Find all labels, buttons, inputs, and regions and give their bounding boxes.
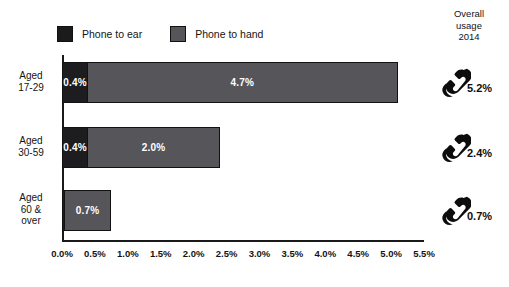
- overall-usage-row-aged-30-59: 2.4%: [437, 125, 507, 171]
- x-axis-tick-label: 0.0%: [51, 248, 73, 260]
- x-axis-tick-label: 1.0%: [117, 248, 139, 260]
- category-label-line1: Aged: [6, 70, 56, 82]
- legend-label-phone-to-hand: Phone to hand: [195, 28, 263, 40]
- category-label-line3: over: [6, 215, 56, 227]
- x-axis-tick-label: 2.5%: [216, 248, 238, 260]
- chart-legend: Phone to ear Phone to hand: [57, 24, 291, 44]
- overall-usage-value: 0.7%: [467, 210, 492, 222]
- x-axis-tick-label: 4.0%: [314, 248, 336, 260]
- table-row[interactable]: 0.4% 2.0%: [62, 127, 220, 168]
- x-axis-tick-label: 5.0%: [380, 248, 402, 260]
- bar-segment-phone-to-ear[interactable]: 0.4%: [62, 127, 88, 168]
- x-axis-tick-labels: 0.0%0.5%1.0%1.5%2.0%2.5%3.0%3.5%4.0%4.5%…: [62, 248, 424, 264]
- x-axis-tick-label: 3.5%: [282, 248, 304, 260]
- telephone-handset-icon: [437, 194, 471, 228]
- category-label-line2: 17-29: [6, 82, 56, 94]
- legend-label-phone-to-ear: Phone to ear: [82, 28, 142, 40]
- x-axis-tick-label: 1.5%: [150, 248, 172, 260]
- category-label-line2: 60 &: [6, 204, 56, 216]
- bar-segment-phone-to-ear[interactable]: 0.4%: [62, 62, 88, 103]
- bar-value-label: 2.0%: [142, 142, 166, 153]
- bar-value-label: 0.7%: [76, 205, 100, 216]
- legend-item-phone-to-ear: Phone to ear: [57, 26, 142, 42]
- table-row[interactable]: 0.7%: [62, 190, 111, 231]
- bar-segment-phone-to-hand[interactable]: 2.0%: [87, 127, 220, 168]
- category-label-line1: Aged: [6, 192, 56, 204]
- x-axis-tick-label: 5.5%: [413, 248, 435, 260]
- category-label-aged-17-29: Aged 17-29: [6, 70, 56, 93]
- category-label-line2: 30-59: [6, 147, 56, 159]
- overall-usage-header-line2: usage: [436, 20, 502, 32]
- telephone-handset-icon: [437, 131, 471, 165]
- bar-value-label: 0.4%: [62, 142, 88, 153]
- x-axis-tick-label: 0.5%: [84, 248, 106, 260]
- plot-area: 0.4% 4.7% 0.4% 2.0% 0.7%: [62, 55, 424, 240]
- category-label-line1: Aged: [6, 135, 56, 147]
- table-row[interactable]: 0.4% 4.7%: [62, 62, 398, 103]
- overall-usage-row-aged-60-over: 0.7%: [437, 188, 507, 234]
- chart-container: Phone to ear Phone to hand Overall usage…: [0, 0, 509, 287]
- bar-segment-phone-to-hand[interactable]: 4.7%: [87, 62, 398, 103]
- overall-usage-value: 5.2%: [467, 82, 492, 94]
- overall-usage-row-aged-17-29: 5.2%: [437, 60, 507, 106]
- x-axis-tick-label: 2.0%: [183, 248, 205, 260]
- overall-usage-header-line1: Overall: [436, 8, 502, 20]
- telephone-handset-icon: [437, 66, 471, 100]
- x-axis-tick-label: 3.0%: [249, 248, 271, 260]
- bar-value-label: 4.7%: [231, 77, 255, 88]
- overall-usage-value: 2.4%: [467, 147, 492, 159]
- legend-swatch-gray-icon: [170, 26, 186, 42]
- x-axis-tick-label: 4.5%: [347, 248, 369, 260]
- legend-swatch-dark-icon: [57, 26, 73, 42]
- bar-segment-phone-to-hand[interactable]: 0.7%: [64, 190, 111, 231]
- category-label-aged-60-over: Aged 60 & over: [6, 192, 56, 227]
- x-axis-line: [62, 240, 424, 242]
- overall-usage-header-line3: 2014: [436, 31, 502, 43]
- overall-usage-header: Overall usage 2014: [436, 8, 502, 43]
- legend-item-phone-to-hand: Phone to hand: [170, 26, 263, 42]
- category-label-aged-30-59: Aged 30-59: [6, 135, 56, 158]
- bar-value-label: 0.4%: [62, 77, 88, 88]
